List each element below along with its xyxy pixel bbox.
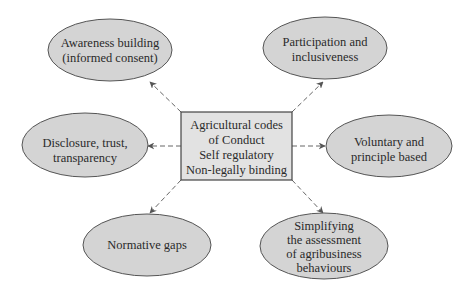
node-simplifying-line-2: the assessment (287, 233, 361, 247)
node-voluntary-line-2: principle based (351, 150, 428, 164)
node-simplifying-line-3: of agribusiness (286, 247, 361, 261)
arrow-to-awareness (150, 82, 181, 112)
node-participation: Participation and inclusiveness (263, 17, 387, 79)
center-line-1: Agricultural codes (190, 118, 283, 132)
node-disclosure-line-2: transparency (53, 151, 118, 165)
node-voluntary-line-1: Voluntary and (354, 135, 425, 149)
node-awareness: Awareness building (informed consent) (48, 19, 172, 81)
center-line-4: Non-legally binding (186, 163, 288, 177)
node-voluntary: Voluntary and principle based (326, 115, 452, 177)
node-simplifying-line-4: behaviours (297, 261, 352, 275)
diagram-canvas: Agricultural codes of Conduct Self regul… (0, 0, 470, 292)
center-box: Agricultural codes of Conduct Self regul… (181, 112, 292, 180)
arrow-to-participation (292, 82, 323, 112)
arrow-to-normative (150, 180, 181, 213)
node-simplifying: Simplifying the assessment of agribusine… (260, 213, 388, 279)
node-awareness-line-2: (informed consent) (62, 51, 157, 65)
node-disclosure: Disclosure, trust, transparency (22, 113, 148, 177)
node-awareness-line-1: Awareness building (61, 36, 160, 50)
node-simplifying-line-1: Simplifying (294, 219, 354, 233)
center-line-2: of Conduct (209, 133, 265, 147)
center-line-3: Self regulatory (199, 148, 274, 162)
node-disclosure-line-1: Disclosure, trust, (42, 136, 127, 150)
node-participation-line-1: Participation and (282, 35, 368, 49)
node-normative-line-1: Normative gaps (107, 238, 187, 252)
node-participation-line-2: inclusiveness (292, 50, 359, 64)
node-normative: Normative gaps (83, 214, 211, 276)
arrow-to-simplifying (292, 180, 323, 213)
